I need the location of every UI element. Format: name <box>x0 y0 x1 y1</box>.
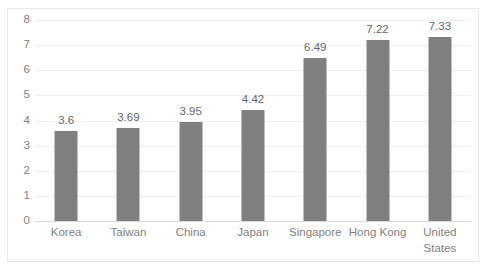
bar-slot: 3.69 <box>97 20 159 221</box>
x-axis: KoreaTaiwanChinaJapanSingaporeHong KongU… <box>35 225 471 265</box>
y-axis-tick-label: 1 <box>8 190 30 202</box>
y-axis-tick-label: 0 <box>8 215 30 227</box>
bar[interactable] <box>428 37 451 221</box>
bar[interactable] <box>179 122 202 221</box>
bar-value-label: 3.6 <box>58 115 74 127</box>
bar-value-label: 7.33 <box>429 21 451 33</box>
x-axis-category-label: Singapore <box>284 225 346 241</box>
bar-value-label: 3.69 <box>117 112 139 124</box>
bar[interactable] <box>55 131 78 221</box>
bar[interactable] <box>117 128 140 221</box>
bar-value-label: 4.42 <box>242 94 264 106</box>
bar-slot: 7.33 <box>409 20 471 221</box>
bar-slot: 4.42 <box>222 20 284 221</box>
bar-slot: 7.22 <box>346 20 408 221</box>
x-axis-category-label: Korea <box>35 225 97 241</box>
x-axis-category-label: Hong Kong <box>346 225 408 241</box>
y-axis-tick-label: 5 <box>8 89 30 101</box>
bar[interactable] <box>241 110 264 221</box>
plot-area: 3.63.693.954.426.497.227.33 <box>35 20 471 221</box>
bar-value-label: 3.95 <box>180 106 202 118</box>
x-axis-category-label: Japan <box>222 225 284 241</box>
bar-slot: 6.49 <box>284 20 346 221</box>
y-axis-tick-label: 4 <box>8 115 30 127</box>
y-axis-tick-label: 3 <box>8 140 30 152</box>
bar[interactable] <box>366 40 389 221</box>
chart-container: 012345678 3.63.693.954.426.497.227.33 Ko… <box>7 8 479 262</box>
bar-slot: 3.95 <box>160 20 222 221</box>
x-axis-category-label: United States <box>409 225 471 256</box>
bar[interactable] <box>304 58 327 221</box>
gridline <box>35 221 471 222</box>
x-axis-category-label: China <box>160 225 222 241</box>
x-axis-category-label: Taiwan <box>97 225 159 241</box>
bar-slot: 3.6 <box>35 20 97 221</box>
y-axis-tick-label: 6 <box>8 64 30 76</box>
y-axis-tick-label: 2 <box>8 165 30 177</box>
y-axis-tick-label: 8 <box>8 14 30 26</box>
bar-value-label: 6.49 <box>304 42 326 54</box>
y-axis: 012345678 <box>8 20 30 221</box>
y-axis-tick-label: 7 <box>8 39 30 51</box>
bar-value-label: 7.22 <box>366 24 388 36</box>
